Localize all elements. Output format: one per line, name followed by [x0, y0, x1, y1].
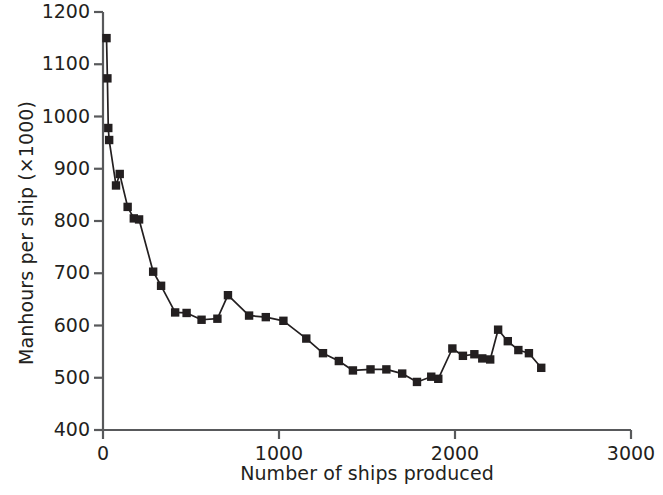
data-point-marker: [182, 309, 190, 317]
data-point-marker: [486, 355, 494, 363]
y-tick-label: 900: [30, 157, 90, 179]
data-point-marker: [448, 344, 456, 352]
data-point-marker: [149, 267, 157, 275]
data-point-marker: [103, 74, 111, 82]
y-tick-label: 400: [30, 418, 90, 440]
data-point-marker: [459, 352, 467, 360]
y-tick-label: 600: [30, 314, 90, 336]
data-point-marker: [478, 354, 486, 362]
data-point-marker: [135, 215, 143, 223]
data-point-marker: [171, 308, 179, 316]
data-series-group: [102, 34, 545, 386]
data-point-marker: [213, 315, 221, 323]
y-tick-label: 1000: [30, 105, 90, 127]
data-point-marker: [197, 316, 205, 324]
data-point-marker: [105, 136, 113, 144]
y-tick-label: 700: [30, 261, 90, 283]
data-point-marker: [514, 346, 522, 354]
y-tick-label: 500: [30, 366, 90, 388]
y-tick-label: 1100: [30, 52, 90, 74]
data-point-marker: [413, 378, 421, 386]
data-point-marker: [382, 365, 390, 373]
data-point-marker: [123, 203, 131, 211]
data-point-marker: [434, 375, 442, 383]
x-tick-label: 0: [63, 442, 143, 464]
data-point-marker: [224, 291, 232, 299]
data-point-marker: [319, 349, 327, 357]
data-point-marker: [116, 170, 124, 178]
data-point-marker: [504, 337, 512, 345]
chart-container: 400500600700800900100011001200 010002000…: [0, 0, 663, 495]
data-point-marker: [279, 317, 287, 325]
data-point-marker: [525, 349, 533, 357]
data-point-marker: [366, 365, 374, 373]
x-tick-label: 1000: [239, 442, 319, 464]
series-line-0: [107, 38, 542, 382]
plot-area: [0, 0, 663, 495]
data-point-marker: [245, 311, 253, 319]
data-point-marker: [349, 366, 357, 374]
data-point-marker: [335, 357, 343, 365]
data-point-marker: [104, 124, 112, 132]
y-axis-title: Manhours per ship (×1000): [15, 83, 37, 383]
axes-group: [94, 12, 631, 439]
data-point-marker: [494, 325, 502, 333]
data-point-marker: [102, 34, 110, 42]
data-point-marker: [157, 282, 165, 290]
data-point-marker: [112, 181, 120, 189]
data-point-marker: [262, 313, 270, 321]
y-tick-label: 1200: [30, 0, 90, 22]
x-axis-title: Number of ships produced: [103, 462, 631, 484]
x-tick-label: 2000: [415, 442, 495, 464]
data-point-marker: [537, 364, 545, 372]
y-tick-label: 800: [30, 209, 90, 231]
data-point-marker: [302, 334, 310, 342]
data-point-marker: [470, 350, 478, 358]
data-point-marker: [398, 369, 406, 377]
x-tick-label: 3000: [591, 442, 663, 464]
